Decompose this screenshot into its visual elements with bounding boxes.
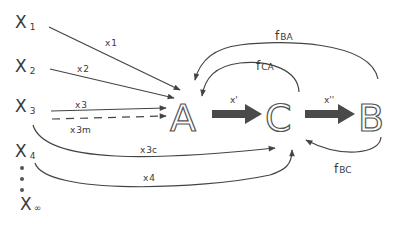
ellipsis-dots: [20, 166, 24, 192]
dot: [20, 188, 24, 192]
arrow-fca: [202, 62, 299, 96]
svg-text:X1: X1: [15, 12, 35, 32]
arrow-x1: [49, 27, 180, 90]
label-x3m: x3m: [70, 125, 91, 135]
arrow-x3m: [52, 116, 166, 119]
arrow-x2: [50, 69, 174, 98]
source-x2: X2: [15, 56, 35, 76]
svg-text:X2: X2: [15, 56, 35, 76]
svg-text:X4: X4: [15, 141, 36, 161]
node-b: B: [358, 96, 384, 140]
label-fca: fCA: [256, 59, 275, 73]
dot: [20, 166, 24, 170]
arrow-x4: [35, 150, 292, 187]
label-x2: x2: [77, 64, 89, 74]
node-a: A: [170, 96, 196, 140]
source-xinf: X∞: [20, 194, 41, 214]
source-x4: X4: [15, 141, 36, 161]
label-x3: x3: [75, 100, 87, 110]
node-c: C: [265, 96, 292, 140]
label-x-prime: x': [230, 95, 238, 105]
arrow-x3: [51, 108, 166, 111]
label-fba: fBA: [275, 29, 293, 43]
label-fbc: fBC: [334, 162, 352, 176]
arrow-c-to-b: [305, 104, 355, 124]
svg-text:X3: X3: [15, 96, 35, 116]
source-x3: X3: [15, 96, 35, 116]
flow-diagram: X1 X2 X3 X4 X∞ x1 x2 x3 x3m x3c x4 A C B…: [0, 0, 402, 227]
dot: [20, 177, 24, 181]
label-x3c: x3c: [140, 145, 157, 155]
source-x1: X1: [15, 12, 35, 32]
label-x-double-prime: x'': [324, 95, 334, 105]
svg-text:X∞: X∞: [20, 194, 41, 214]
arrow-fba: [195, 43, 378, 80]
label-x1: x1: [105, 38, 117, 48]
arrow-a-to-c: [212, 104, 262, 124]
label-x4: x4: [143, 173, 155, 183]
